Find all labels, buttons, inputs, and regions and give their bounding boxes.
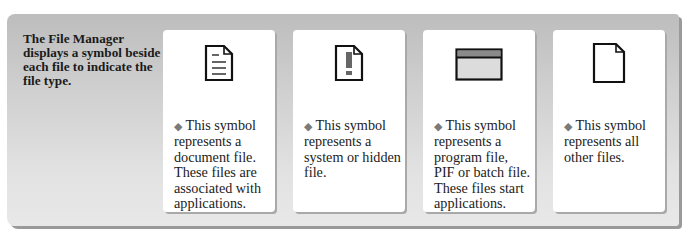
document-file-icon bbox=[204, 44, 234, 82]
file-types-panel: The File Manager displays a symbol besid… bbox=[7, 14, 679, 226]
card-description: This symbol represents a system or hidde… bbox=[304, 117, 401, 180]
card-description: This symbol represents a program file, P… bbox=[434, 117, 530, 211]
program-file-icon bbox=[455, 48, 503, 82]
card-document-file: ◆This symbol represents a document file.… bbox=[163, 30, 275, 212]
bullet-icon: ◆ bbox=[174, 120, 182, 132]
card-program-file: ◆This symbol represents a program file, … bbox=[423, 30, 535, 212]
card-description: This symbol represents all other files. bbox=[564, 117, 646, 165]
bullet-icon: ◆ bbox=[564, 120, 572, 132]
bullet-icon: ◆ bbox=[304, 120, 312, 132]
intro-text: The File Manager displays a symbol besid… bbox=[23, 32, 163, 88]
card-system-hidden-file: ◆This symbol represents a system or hidd… bbox=[293, 30, 405, 212]
card-description: This symbol represents a document file. … bbox=[174, 117, 261, 211]
other-file-icon bbox=[592, 42, 626, 84]
system-hidden-file-icon bbox=[334, 44, 364, 82]
card-other-file: ◆This symbol represents all other files. bbox=[553, 30, 665, 212]
bullet-icon: ◆ bbox=[434, 120, 442, 132]
